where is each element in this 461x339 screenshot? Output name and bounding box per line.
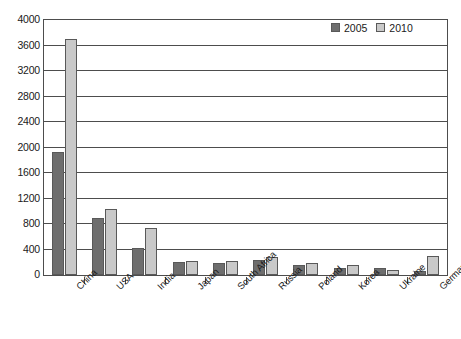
bar-group	[407, 20, 447, 275]
bar-group	[286, 20, 326, 275]
y-tick-label: 400	[2, 244, 40, 254]
bar-china-2005	[52, 152, 64, 275]
y-axis: 400036003200280024002000160012008004000	[0, 19, 40, 276]
x-axis-label-south-africa: South Africa	[235, 284, 243, 292]
bar-group	[44, 20, 84, 275]
x-axis-label-india: India	[155, 284, 163, 292]
legend: 20052010	[327, 19, 413, 36]
bar-poland-2010	[306, 263, 318, 275]
bar-germany-2010	[427, 256, 439, 275]
y-tick-label: 4000	[2, 14, 40, 24]
x-axis-label-japan: Japan	[195, 284, 203, 292]
legend-label: 2005	[344, 22, 367, 34]
legend-entry-2010: 2010	[376, 22, 412, 34]
bar-ukraine-2010	[387, 270, 399, 275]
bar-chart: 400036003200280024002000160012008004000 …	[0, 0, 461, 339]
y-tick-label: 3200	[2, 65, 40, 75]
bar-group	[125, 20, 165, 275]
bar-korea-2010	[347, 265, 359, 275]
bar-group	[326, 20, 366, 275]
x-axis-label-korea: Korea	[356, 284, 364, 292]
x-axis-label-china: China	[74, 284, 82, 292]
bar-usa-2005	[92, 218, 104, 275]
bar-usa-2010	[105, 209, 117, 275]
y-tick-label: 2800	[2, 91, 40, 101]
x-axis-labels: ChinaUSAIndiaJapanSouth AfricaRussiaPola…	[44, 284, 447, 339]
y-tick-label: 0	[2, 269, 40, 279]
y-tick-label: 2000	[2, 142, 40, 152]
legend-label: 2010	[389, 22, 412, 34]
y-tick-label: 800	[2, 218, 40, 228]
y-tick-label: 1600	[2, 167, 40, 177]
y-tick-label: 1200	[2, 193, 40, 203]
bar-group	[246, 20, 286, 275]
x-axis-label-poland: Poland	[316, 284, 324, 292]
bar-india-2005	[132, 248, 144, 275]
bar-group	[84, 20, 124, 275]
x-axis-label-ukraine: Ukraine	[397, 284, 405, 292]
bar-group	[165, 20, 205, 275]
bar-group	[205, 20, 245, 275]
light-gray-swatch	[376, 23, 385, 32]
bar-japan-2010	[186, 261, 198, 275]
bars-layer	[44, 20, 447, 275]
x-axis-label-usa: USA	[114, 284, 122, 292]
bar-india-2010	[145, 228, 157, 275]
bar-south-africa-2010	[226, 261, 238, 275]
bar-china-2010	[65, 39, 77, 276]
y-tick-label: 2400	[2, 116, 40, 126]
x-axis-label-germany: Germany	[437, 284, 445, 292]
bar-group	[366, 20, 406, 275]
x-axis-label-russia: Russia	[276, 284, 284, 292]
bar-japan-2005	[173, 262, 185, 275]
dark-gray-swatch	[331, 23, 340, 32]
legend-entry-2005: 2005	[331, 22, 367, 34]
y-tick-label: 3600	[2, 40, 40, 50]
